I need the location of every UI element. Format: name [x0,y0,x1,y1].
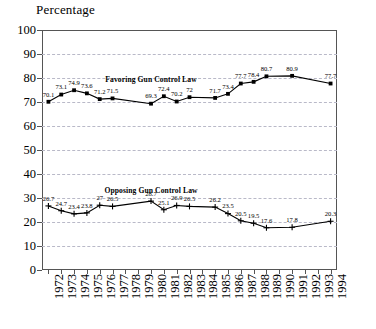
x-axis-tick-label: 1974 [79,274,92,299]
x-axis-tick-label: 1978 [130,274,143,299]
data-point-label: 70.1 [43,92,55,99]
x-axis-tick [331,270,332,274]
data-point-label: 26.2 [209,197,221,204]
x-axis-tick [254,270,255,274]
data-point-label: 26.9 [171,196,183,203]
gridline [42,174,337,175]
x-axis-tick [241,270,242,274]
data-point-label: 24.7 [55,201,67,208]
x-axis-tick [125,270,126,274]
y-axis-tick-label: 50 [24,144,37,157]
y-axis-tick-label: 20 [24,216,37,229]
x-axis-tick-label: 1987 [246,274,259,299]
series-label-1: Favoring Gun Control Law [105,75,197,84]
x-axis-tick-label: 1976 [105,274,118,299]
y-axis-tick [37,54,42,55]
data-point-label: 19.5 [248,213,260,220]
data-point-label: 72.4 [158,86,170,93]
data-point-label: 23.4 [68,204,80,211]
gridline [42,126,337,127]
x-axis-tick-label: 1982 [182,274,195,299]
data-point-label: 72 [186,87,193,94]
x-axis-tick [190,270,191,274]
gridline [42,150,337,151]
data-point-label: 26.7 [43,196,55,203]
x-axis-tick [164,270,165,274]
x-axis-tick [215,270,216,274]
x-axis-tick [151,270,152,274]
gridline [42,54,337,55]
x-axis-tick [266,270,267,274]
x-axis-tick [202,270,203,274]
data-point-label: 71.5 [107,89,119,96]
data-point-label: 74.9 [68,80,80,87]
x-axis-tick-label: 1979 [143,274,156,299]
gun-control-line-chart: Percentage 0102030405060708090100 197219… [0,0,376,329]
data-point-label: 20.3 [325,211,337,218]
x-axis-tick [48,270,49,274]
y-axis-tick [37,198,42,199]
y-axis-tick-label: 70 [24,96,37,109]
x-axis-tick [87,270,88,274]
x-axis-tick-label: 1986 [233,274,246,299]
y-axis-title: Percentage [36,2,95,18]
y-axis-tick-label: 80 [24,72,37,85]
data-point-label: 17.6 [261,218,273,225]
data-point-label: 70.2 [171,92,183,99]
x-axis-tick [113,270,114,274]
y-axis-tick [37,150,42,151]
data-point-label: 69.3 [145,94,157,101]
x-axis-tick [279,270,280,274]
y-axis-tick [37,102,42,103]
y-axis-tick-label: 0 [30,264,36,277]
data-point-label: 78.4 [248,72,260,79]
data-point-label: 26.5 [107,197,119,204]
data-point-label: 73.6 [81,84,93,91]
x-axis-tick [61,270,62,274]
x-axis-tick-label: 1984 [207,274,220,299]
data-point-label: 71.7 [209,88,221,95]
y-axis-tick [37,246,42,247]
series-label-2: Opposing Gun Control Law [104,185,197,194]
gridline [42,246,337,247]
y-axis-tick-label: 90 [24,48,37,61]
x-axis-tick-label: 1975 [92,274,105,299]
x-axis-tick [318,270,319,274]
x-axis-tick-label: 1985 [220,274,233,299]
data-point-label: 73.4 [222,84,234,91]
gridline [42,102,337,103]
y-axis-tick-label: 60 [24,120,37,133]
x-axis-tick [292,270,293,274]
x-axis-tick [305,270,306,274]
data-point-label: 80.9 [286,66,298,73]
y-axis-tick-label: 30 [24,192,37,205]
data-point-label: 77.7 [235,74,247,81]
y-axis-tick [37,30,42,31]
data-point-label: 17.8 [286,217,298,224]
x-axis-tick [74,270,75,274]
y-axis-tick-label: 40 [24,168,37,181]
data-point-label: 23.5 [222,204,234,211]
data-point-label: 80.7 [261,67,273,74]
data-point-label: 20.5 [235,211,247,218]
data-point-label: 73.1 [55,85,67,92]
y-axis-tick [37,174,42,175]
x-axis-tick-label: 1981 [169,274,182,299]
x-axis-tick-label: 1973 [66,274,79,299]
x-axis-tick-label: 1994 [336,274,349,299]
y-axis-tick-label: 10 [24,240,37,253]
x-axis-tick-label: 1990 [284,274,297,299]
data-point-label: 71.2 [94,89,106,96]
x-axis-tick [138,270,139,274]
y-axis-tick [37,78,42,79]
data-point-label: 25.1 [158,200,170,207]
data-point-label: 27 [96,195,103,202]
y-axis-tick [37,126,42,127]
x-axis-tick-label: 1992 [310,274,323,299]
x-axis-tick-label: 1980 [156,274,169,299]
x-axis-tick-label: 1991 [297,274,310,299]
data-point-label: 77.7 [325,74,337,81]
x-axis-tick-label: 1993 [323,274,336,299]
y-axis-tick [37,270,42,271]
y-axis-tick [37,222,42,223]
